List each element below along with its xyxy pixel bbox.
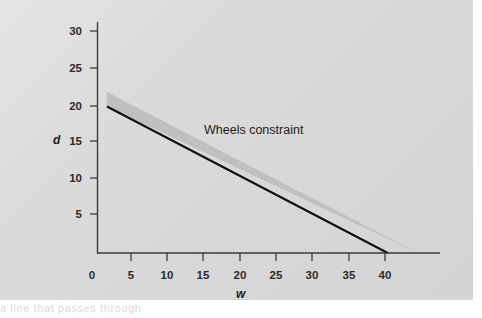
x-tick-label-30: 30 (301, 270, 323, 282)
x-tick-label-40: 40 (374, 270, 396, 282)
y-tick-label-10: 10 (60, 173, 82, 185)
x-tick-label-35: 35 (338, 270, 360, 282)
x-tick-label-10: 10 (156, 270, 178, 282)
y-axis-ticks (90, 31, 97, 214)
y-tick-label-15: 15 (60, 136, 82, 148)
x-axis-label: w (236, 288, 245, 300)
x-tick-label-0: 0 (81, 270, 103, 282)
plot-canvas (0, 0, 473, 300)
y-tick-label-25: 25 (60, 63, 82, 75)
constraint-band-shape (107, 92, 418, 253)
y-tick-label-30: 30 (60, 26, 82, 38)
x-tick-label-25: 25 (265, 270, 287, 282)
chart-figure: 30 25 20 15 10 5 0 5 10 15 20 25 30 35 4… (0, 0, 482, 318)
x-axis-ticks (131, 253, 385, 261)
y-tick-label-5: 5 (60, 209, 82, 221)
y-tick-label-20: 20 (60, 101, 82, 113)
x-tick-label-5: 5 (120, 270, 142, 282)
x-tick-label-20: 20 (229, 270, 251, 282)
wheels-constraint-annotation: Wheels constraint (204, 124, 303, 137)
x-tick-label-15: 15 (192, 270, 214, 282)
caption-ghost-text: a line that passes through (0, 302, 482, 318)
y-axis-label: d (53, 134, 60, 146)
